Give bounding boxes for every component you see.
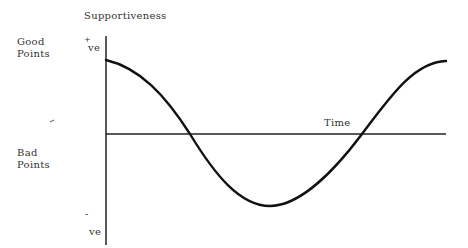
supportiveness-curve — [106, 60, 446, 206]
chart-canvas — [0, 0, 468, 248]
stray-mark — [50, 120, 54, 122]
